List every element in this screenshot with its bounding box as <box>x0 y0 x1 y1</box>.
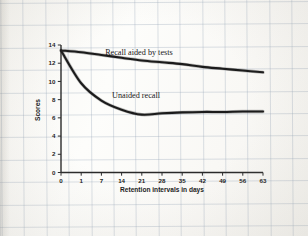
y-axis-title: Scores <box>34 99 41 121</box>
series-label-unaided-recall: Unaided recall <box>112 91 161 100</box>
retention-line-chart: 0171421283542495663 02468101214 Retentio… <box>0 0 308 236</box>
y-tick-label: 4 <box>52 132 56 139</box>
x-tick-label: 35 <box>179 177 186 184</box>
y-tick-label: 14 <box>49 41 56 48</box>
chart-series-group <box>61 50 263 114</box>
x-tick-label: 42 <box>199 177 206 184</box>
scanned-page: 0171421283542495663 02468101214 Retentio… <box>0 0 308 236</box>
chart-axes <box>61 45 263 173</box>
y-tick-label: 10 <box>49 78 56 85</box>
x-tick-label: 0 <box>59 177 63 184</box>
x-axis-tick-labels: 0171421283542495663 <box>59 177 267 184</box>
y-tick-label: 8 <box>52 96 56 103</box>
series-label-recall-aided-by-tests: Recall aided by tests <box>105 48 173 57</box>
x-tick-label: 7 <box>100 177 104 184</box>
x-tick-label: 1 <box>79 177 83 184</box>
y-tick-label: 12 <box>49 59 56 66</box>
y-tick-label: 6 <box>52 114 56 121</box>
y-axis-tick-labels: 02468101214 <box>49 41 56 176</box>
x-tick-label: 28 <box>159 177 166 184</box>
x-axis-title: Retention intervals in days <box>120 186 204 194</box>
x-tick-label: 56 <box>239 177 246 184</box>
y-tick-label: 2 <box>52 150 56 157</box>
x-tick-label: 49 <box>219 177 226 184</box>
x-tick-label: 21 <box>138 177 145 184</box>
x-tick-label: 14 <box>118 177 125 184</box>
series-line-unaided-recall <box>61 50 263 114</box>
y-tick-label: 0 <box>52 169 56 176</box>
x-tick-label: 63 <box>260 177 267 184</box>
series-line-halo <box>61 50 263 114</box>
